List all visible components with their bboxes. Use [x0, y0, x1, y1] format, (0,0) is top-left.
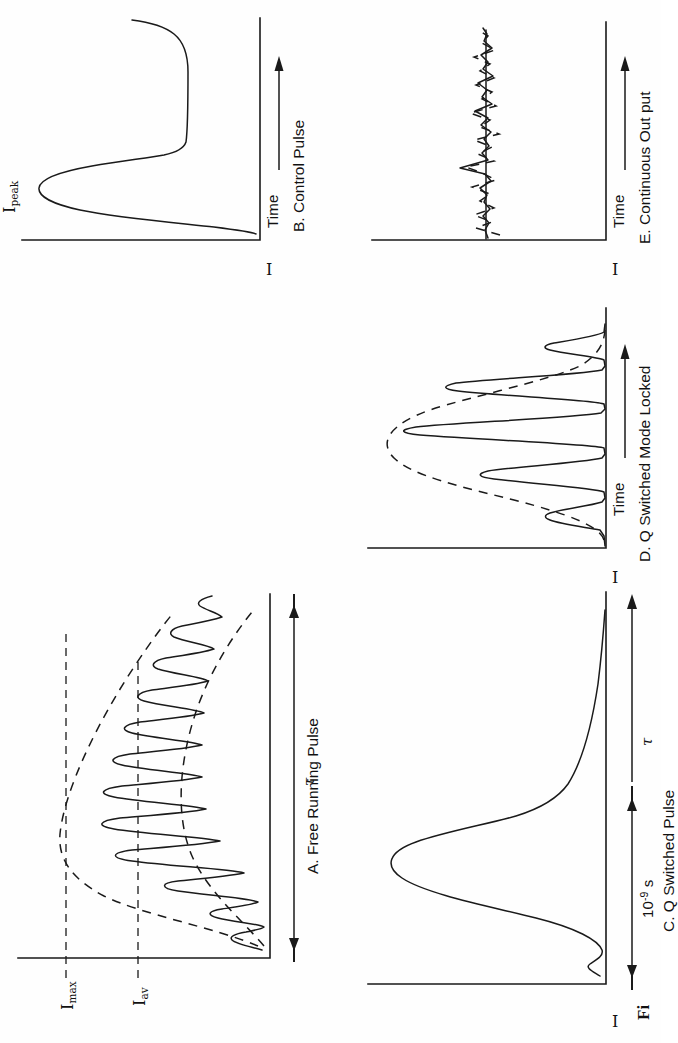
panel-c-tau-label: τ	[638, 738, 656, 747]
panel-d-axes	[368, 308, 606, 548]
panel-b-y-label: I	[266, 260, 273, 279]
panel-a: Imax Iav τ A. Free Running Pulse	[8, 586, 324, 1024]
panel-a-caption: A. Free Running Pulse	[304, 718, 322, 874]
panel-a-imax-label: Imax	[58, 981, 78, 1010]
panel-b-plot	[8, 10, 308, 268]
panel-d-spikes	[404, 324, 605, 546]
panel-a-axes	[18, 594, 270, 958]
panel-a-spike-train	[102, 596, 264, 950]
panel-b-time-label: Time	[264, 194, 281, 228]
panel-d-caption: D. Q Switched Mode Locked	[636, 366, 654, 562]
panel-e-fluctuation	[460, 28, 493, 238]
panel-e-plot	[354, 18, 654, 268]
panel-d-time-arrow	[616, 340, 634, 460]
panel-c-curve	[391, 610, 605, 976]
panel-c-scale-label: 10-9 s	[638, 879, 656, 918]
panel-d: I Time D. Q Switched Mode Locked	[354, 304, 654, 576]
panel-e-y-label: I	[612, 260, 619, 279]
panel-c-caption: C. Q Switched Pulse	[660, 790, 678, 932]
panel-c-plot	[354, 584, 654, 1024]
panel-a-iav-label: Iav	[130, 987, 150, 1006]
panel-e: I Time E. Continuous Out put	[354, 18, 654, 268]
panel-a-upper-envelope	[60, 612, 258, 946]
panel-b-time-arrow	[270, 52, 288, 172]
panel-b-caption: B. Control Pulse	[290, 120, 308, 232]
panel-b-axes	[22, 18, 260, 240]
panel-c-y-label: I	[612, 1012, 619, 1031]
panel-a-plot	[8, 586, 324, 1024]
figure-caption-fragment: Fi	[634, 1005, 654, 1020]
panel-c-axes	[368, 592, 606, 984]
panel-c: I 10-9 s τ C. Q Switched Pulse	[354, 584, 654, 1024]
panel-d-plot	[354, 304, 654, 576]
panel-e-time-label: Time	[610, 194, 627, 228]
panel-b: Ipeak I Time B. Control Pulse	[8, 10, 308, 268]
panel-d-time-label: Time	[610, 482, 627, 516]
panel-e-noise-trace	[466, 30, 500, 235]
panel-b-curve	[39, 20, 256, 234]
panel-e-caption: E. Continuous Out put	[636, 91, 654, 244]
panel-e-time-arrow	[616, 52, 634, 172]
panel-b-peak-label: Ipeak	[0, 181, 20, 213]
